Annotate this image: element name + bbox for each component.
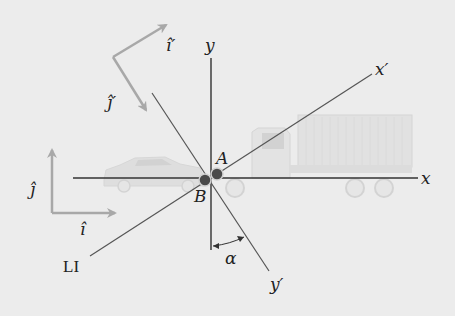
truck-illustration: [226, 115, 412, 197]
point-a: [211, 168, 223, 180]
angle-alpha-label: α: [225, 248, 237, 268]
point-a-label: A: [214, 148, 228, 168]
i-hat-prime-label: î′: [166, 35, 175, 55]
y-prime-label: y′: [269, 274, 284, 294]
line-li-label: LI: [63, 257, 79, 276]
y-axis-label: y: [204, 35, 215, 55]
x-axis-label: x: [421, 168, 431, 188]
car-illustration: [104, 157, 205, 192]
rotated-unit-vectors: [113, 25, 166, 110]
diagram-canvas: x y x′ y′ ĵ î î′ ĵ′ A B α LI: [0, 0, 455, 316]
j-hat-prime-label: ĵ′: [104, 92, 116, 112]
x-prime-label: x′: [375, 59, 389, 79]
point-b: [199, 174, 211, 186]
i-hat-label: î: [80, 219, 87, 239]
j-hat-label: ĵ: [27, 179, 37, 199]
point-b-label: B: [193, 186, 207, 206]
